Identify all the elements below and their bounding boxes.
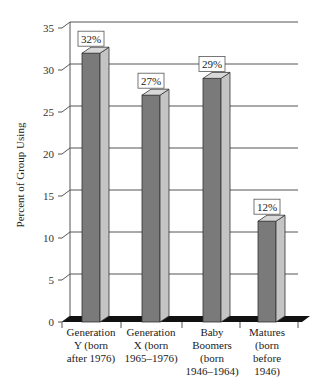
- category-labels: GenerationY (bornafter 1976)GenerationX …: [67, 326, 285, 378]
- y-tick-label: 30: [43, 64, 55, 76]
- bar: 12%: [254, 199, 285, 322]
- data-label: 27%: [141, 75, 161, 87]
- category-label: X (born: [134, 339, 169, 352]
- y-tick-label: 0: [49, 316, 55, 328]
- data-label: 32%: [81, 33, 101, 45]
- category-label: after 1976): [67, 352, 116, 365]
- category-label: before: [253, 352, 281, 364]
- category-label: 1965–1976): [124, 352, 178, 365]
- category-label: Generation: [127, 326, 176, 338]
- data-label: 12%: [257, 201, 277, 213]
- y-tick-label: 20: [43, 148, 55, 160]
- y-tick-label: 10: [43, 232, 55, 244]
- y-tick-label: 25: [43, 106, 55, 118]
- bar-chart: 05101520253035 32%27%29%12% GenerationY …: [0, 0, 324, 387]
- data-label: 29%: [202, 58, 222, 70]
- category-label: Generation: [67, 326, 116, 338]
- y-axis-label: Percent of Group Using: [14, 122, 26, 227]
- y-tick-label: 15: [43, 190, 55, 202]
- y-tick-label: 35: [43, 22, 55, 34]
- category-label: 1946): [254, 365, 280, 378]
- category-label: 1946–1964): [185, 365, 239, 378]
- category-label: Y (born: [74, 339, 109, 352]
- category-label: Boomers: [192, 339, 232, 351]
- category-label: Matures: [249, 326, 285, 338]
- bars: 32%27%29%12%: [78, 31, 285, 322]
- bar: 27%: [138, 73, 169, 322]
- y-tick-label: 5: [49, 274, 55, 286]
- category-label: (born: [200, 352, 224, 365]
- category-label: Baby: [200, 326, 224, 338]
- bar: 32%: [78, 31, 109, 322]
- category-label: (born: [255, 339, 279, 352]
- bar: 29%: [199, 56, 230, 322]
